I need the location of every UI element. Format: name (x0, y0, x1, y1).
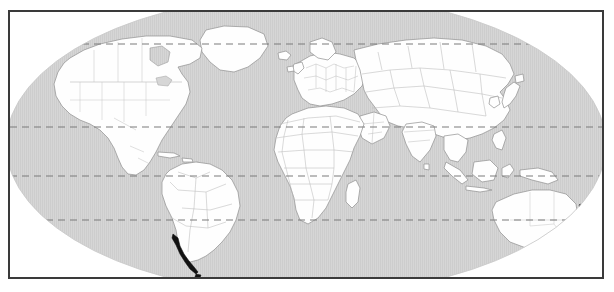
globe-disc (10, 12, 602, 277)
sri-lanka (424, 164, 429, 170)
ireland (287, 66, 294, 72)
hispaniola (182, 158, 193, 162)
world-map-svg (10, 12, 602, 277)
map-figure (0, 0, 614, 292)
map-frame (8, 10, 604, 279)
japan-hokkaido (515, 74, 524, 83)
